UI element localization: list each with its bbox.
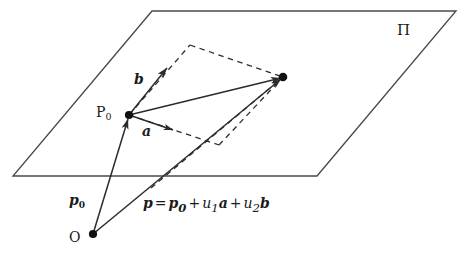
equation-term1: p — [169, 195, 179, 211]
cropped-caption — [168, 259, 318, 269]
tip-point-dot — [279, 73, 288, 82]
origin-point-dot — [89, 230, 97, 238]
figure-canvas: Π P0 O b a p0 p=p0+u1a+u2b — [0, 0, 461, 269]
equation-basis1: a — [219, 195, 228, 211]
equation-coef1-subscript: 1 — [211, 201, 218, 215]
equation-basis2: b — [260, 195, 270, 211]
equation-plus2: + — [228, 195, 244, 211]
dashed-parallelogram — [129, 45, 283, 145]
equation-coef1: u — [202, 195, 211, 211]
point-label-p0-subscript: 0 — [105, 111, 111, 122]
p0-point-dot — [125, 111, 133, 119]
vector-label-p0-subscript: 0 — [79, 200, 85, 210]
plane-label-pi: Π — [397, 23, 410, 38]
point-label-origin: O — [69, 230, 80, 244]
vector-label-a: a — [142, 124, 151, 138]
vector-p0-to-tip-arrow — [129, 78, 281, 115]
plane-equation: p=p0+u1a+u2b — [143, 196, 270, 214]
equation-lhs: p — [143, 195, 153, 211]
vector-label-p0-letter: p — [69, 192, 79, 208]
point-label-p0-letter: P — [96, 104, 105, 120]
equation-equals: = — [153, 195, 169, 211]
plane-outline — [13, 11, 456, 176]
equation-coef2-subscript: 2 — [252, 201, 259, 215]
vector-label-b: b — [134, 72, 144, 86]
vector-label-p0: p0 — [69, 193, 85, 207]
point-label-p0: P0 — [96, 105, 111, 119]
equation-plus1: + — [186, 195, 202, 211]
